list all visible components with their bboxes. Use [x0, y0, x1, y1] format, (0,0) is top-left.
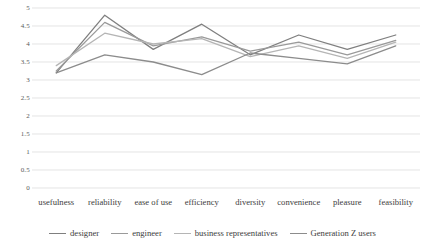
x-axis-tick-label: reliability	[88, 196, 121, 208]
x-axis-tick-label: diversity	[235, 196, 265, 208]
legend-item-business-representatives[interactable]: business representatives	[174, 228, 278, 239]
x-axis-tick-label: usefulness	[38, 196, 74, 208]
legend-item-generation-z-users[interactable]: Generation Z users	[290, 228, 376, 239]
legend-item-engineer[interactable]: engineer	[111, 228, 162, 239]
x-axis-tick-label: feasibility	[379, 196, 413, 208]
series-line-2	[56, 33, 396, 65]
chart-legend: designerengineerbusiness representatives…	[0, 222, 425, 244]
legend-line-icon	[111, 233, 128, 234]
legend-label: Generation Z users	[311, 228, 376, 239]
x-axis-tick-label: pleasure	[333, 196, 362, 208]
gridlines	[32, 8, 420, 188]
x-axis-tick-label: convenience	[277, 196, 320, 208]
series-lines	[56, 15, 396, 74]
legend-line-icon	[290, 233, 307, 234]
legend-label: designer	[70, 228, 99, 239]
x-axis-tick-label: efficiency	[185, 196, 219, 208]
x-axis: usefulnessreliabilityease of useefficien…	[0, 196, 425, 216]
legend-item-designer[interactable]: designer	[49, 228, 99, 239]
x-axis-tick-label: ease of use	[134, 196, 172, 208]
line-chart: 54.543.532.521.510.50 usefulnessreliabil…	[0, 0, 425, 252]
plot-area	[0, 0, 425, 200]
series-line-3	[56, 46, 396, 75]
legend-line-icon	[49, 233, 66, 234]
legend-label: engineer	[132, 228, 162, 239]
legend-line-icon	[174, 233, 191, 234]
legend-label: business representatives	[195, 228, 278, 239]
